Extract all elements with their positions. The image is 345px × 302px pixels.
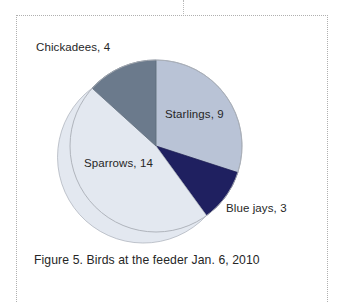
pie-label-chickadees: Chickadees, 4 bbox=[36, 41, 110, 53]
pie-label-sparrows: Sparrows, 14 bbox=[84, 157, 153, 169]
figure-caption: Figure 5. Birds at the feeder Jan. 6, 20… bbox=[34, 253, 260, 267]
pie-label-starlings: Starlings, 9 bbox=[165, 108, 224, 120]
pie-label-blue-jays: Blue jays, 3 bbox=[226, 202, 287, 214]
